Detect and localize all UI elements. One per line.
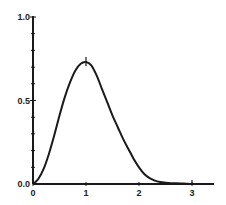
y-tick-label: 0.5 <box>17 96 30 106</box>
axes <box>30 16 214 186</box>
data-curve <box>33 62 192 184</box>
x-tick-label: 1 <box>83 188 88 198</box>
y-tick-label: 1.0 <box>17 12 30 22</box>
x-tick-label: 3 <box>189 188 194 198</box>
chart: 01230.00.51.0 <box>0 0 226 205</box>
peak-marker <box>86 57 192 184</box>
x-tick-label: 0 <box>30 188 35 198</box>
x-tick-label: 2 <box>136 188 141 198</box>
y-tick-label: 0.0 <box>17 179 30 189</box>
